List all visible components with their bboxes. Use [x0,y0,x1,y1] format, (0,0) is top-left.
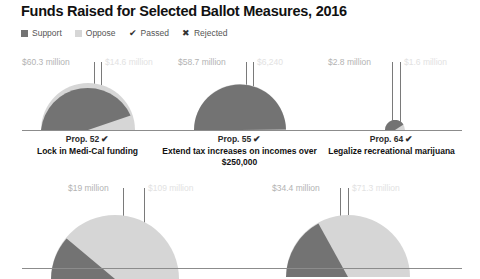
measure-description: Extend tax increases on incomes over $25… [162,146,317,167]
measure-cell-prop-52: $60.3 million $14.6 million Prop. 52✔ Lo… [10,52,165,170]
value-label-support: $58.7 million [178,58,226,67]
result-check-icon: ✔ [405,134,413,144]
caption-prop-52: Prop. 52✔ Lock in Medi-Cal funding [10,134,165,157]
half-pie-chart [194,84,286,130]
filled-square-light-icon [75,30,82,37]
caption-prop-64: Prop. 64✔ Legalize recreational marijuan… [314,134,469,157]
measure-cell-prop-64: $2.8 million $1.6 million Prop. 64✔ Lega… [314,52,469,170]
value-label-oppose: $71.3 million [352,184,400,193]
chart-row-top: $60.3 million $14.6 million Prop. 52✔ Lo… [0,52,480,170]
measure-cell-prop-55: $58.7 million $6,240 Prop. 55✔ Extend ta… [162,52,317,170]
value-label-support: $60.3 million [22,58,70,67]
result-check-icon: ✔ [253,134,261,144]
filled-square-dark-icon [21,30,28,37]
legend-label-rejected: Rejected [194,28,228,38]
prop-number: Prop. 52 [66,134,100,144]
value-label-support: $34.4 million [272,184,320,193]
prop-name-line: Prop. 55✔ [162,134,317,144]
value-label-oppose: $14.6 million [105,58,153,67]
half-pie-chart [385,120,405,130]
page-title: Funds Raised for Selected Ballot Measure… [21,3,347,19]
value-label-support: $2.8 million [328,58,371,67]
result-check-icon: ✔ [101,134,109,144]
check-mark-icon: ✔ [129,29,137,38]
wedge-support [194,84,286,130]
measure-cell-bottom-left: $19 million $109 million [10,178,190,273]
legend-label-oppose: Oppose [86,28,116,38]
prop-number: Prop. 55 [218,134,252,144]
baseline-rule-top [22,130,462,131]
semicircle-prop-52 [41,83,135,130]
measure-description: Lock in Medi-Cal funding [10,146,165,157]
half-pie-chart [41,83,135,130]
prop-name-line: Prop. 64✔ [314,134,469,144]
prop-name-line: Prop. 52✔ [10,134,165,144]
half-pie-chart [51,215,179,279]
prop-number: Prop. 64 [370,134,404,144]
legend-item-oppose: Oppose [75,28,116,38]
legend-item-rejected: ✖ Rejected [182,28,228,38]
chart-legend: Support Oppose ✔ Passed ✖ Rejected [21,28,227,38]
value-label-oppose: $109 million [148,184,193,193]
legend-item-passed: ✔ Passed [129,28,169,38]
chart-row-bottom: $19 million $109 million $34.4 million $… [0,178,480,273]
measure-cell-bottom-right: $34.4 million $71.3 million [252,178,452,273]
semicircle-prop-64 [385,120,405,130]
value-label-support: $19 million [68,184,109,193]
legend-item-support: Support [21,28,62,38]
semicircle-prop-55 [194,84,286,130]
baseline-rule-bottom [22,268,462,269]
legend-label-support: Support [32,28,62,38]
legend-label-passed: Passed [141,28,169,38]
cross-mark-icon: ✖ [182,29,190,38]
caption-prop-55: Prop. 55✔ Extend tax increases on income… [162,134,317,167]
measure-description: Legalize recreational marijuana [314,146,469,157]
value-label-oppose: $1.6 million [404,58,447,67]
value-label-oppose: $6,240 [257,58,283,67]
semicircle-bottom-left [51,215,179,279]
